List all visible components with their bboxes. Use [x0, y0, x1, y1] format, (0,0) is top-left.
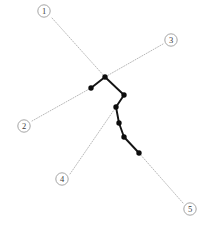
chain-node-n4: [113, 104, 118, 109]
chain-node-n3: [121, 92, 126, 97]
callout-label-1: 1: [42, 6, 46, 16]
callout-marker-3: 3: [165, 34, 177, 46]
leader-line-2: [32, 88, 91, 121]
figure-canvas: 12345: [0, 0, 209, 230]
leader-line-5: [139, 153, 183, 203]
chain-node-n1: [88, 85, 93, 90]
chain-node-n2: [102, 74, 107, 79]
chain-link-group: [91, 77, 139, 153]
callout-marker-2: 2: [18, 120, 30, 132]
callout-marker-1: 1: [38, 5, 50, 17]
chain-node-n6: [121, 134, 126, 139]
chain-node-n7: [136, 150, 141, 155]
callout-group: 12345: [18, 5, 196, 215]
leader-line-3: [105, 44, 163, 77]
leader-line-group: [32, 18, 183, 203]
callout-label-5: 5: [188, 204, 192, 214]
leader-line-4: [70, 107, 116, 174]
callout-label-2: 2: [22, 121, 26, 131]
callout-marker-5: 5: [184, 203, 196, 215]
chain-polyline: [91, 77, 139, 153]
chain-node-n5: [116, 120, 121, 125]
annotated-node-chain-diagram: 12345: [0, 0, 209, 230]
leader-line-1: [52, 18, 105, 77]
callout-marker-4: 4: [56, 173, 68, 185]
callout-label-3: 3: [169, 35, 173, 45]
